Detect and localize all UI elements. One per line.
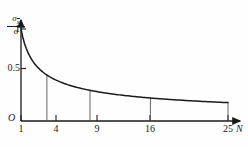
y-tick-label-0-5: 0.5 [0, 63, 20, 73]
origin-label: O [8, 113, 15, 123]
x-tick-label-16: 16 [145, 124, 155, 134]
plot-canvas [0, 0, 248, 147]
x-tick-label-1: 1 [19, 124, 24, 134]
data-curve-inverse-sqrt-n [21, 29, 228, 103]
y-tick-label-1: 1 [4, 24, 20, 34]
figure-container: σx σ 1 0.5 O 1 4 9 16 25 N [0, 0, 248, 147]
x-tick-label-25: 25 [223, 124, 233, 134]
x-tick-label-4: 4 [54, 124, 59, 134]
x-axis-name-label: N [236, 124, 243, 134]
x-tick-label-9: 9 [95, 124, 100, 134]
